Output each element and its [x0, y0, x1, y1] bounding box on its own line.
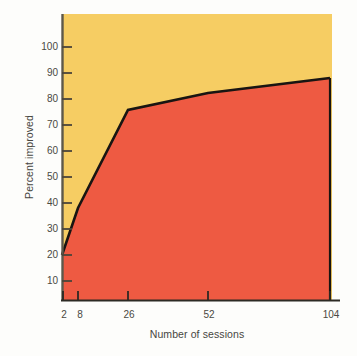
y-axis-title: Percent improved — [18, 14, 40, 300]
x-axis-title: Number of sessions — [62, 328, 332, 340]
x-tick-label: 104 — [323, 309, 340, 320]
chart-figure: 100 90 80 70 60 50 40 30 20 10 2 8 26 52… — [0, 0, 357, 356]
x-tick-label: 26 — [123, 309, 134, 320]
x-tick-label-layer: 2 8 26 52 104 — [0, 309, 357, 325]
x-tick-label: 8 — [77, 309, 83, 320]
x-tick-label: 2 — [61, 309, 67, 320]
x-tick-label: 52 — [203, 309, 214, 320]
